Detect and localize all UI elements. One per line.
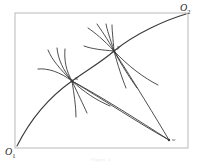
curve-y-to-w xyxy=(114,51,169,140)
figure-container: O1 O2 x y w Figure 1 xyxy=(0,0,202,166)
node-point-x xyxy=(71,80,74,83)
curve-y-fan-lower-3 xyxy=(114,51,158,85)
node-point-y xyxy=(113,50,116,53)
label-point-w: w xyxy=(172,137,175,142)
label-node-x: x xyxy=(75,75,78,82)
label-node-y: y xyxy=(117,44,120,51)
geodesic-curve-group xyxy=(17,14,186,146)
curve-y-fan-upper-2 xyxy=(97,24,114,51)
figure-caption: Figure 1 xyxy=(0,157,202,162)
node-point-w xyxy=(168,139,170,141)
label-origin-upper-right-subscript: 2 xyxy=(187,8,190,15)
curve-x-fan-lower-1 xyxy=(72,81,76,117)
label-origin-upper-right: O2 xyxy=(180,3,190,16)
